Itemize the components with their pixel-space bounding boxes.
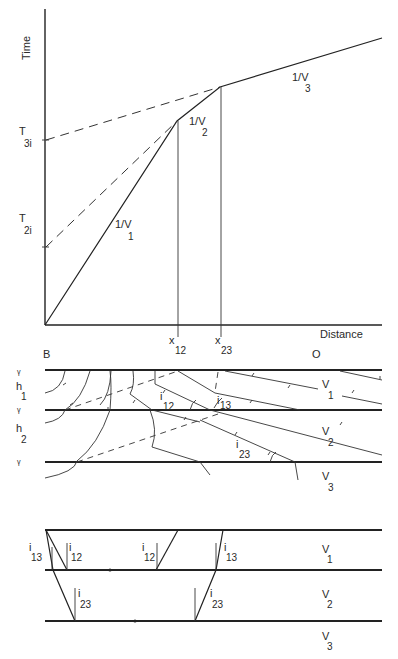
svg-text:23: 23 (212, 599, 224, 610)
svg-text:2: 2 (202, 127, 208, 138)
direction-dot-1 (108, 568, 111, 571)
svg-text:2: 2 (21, 434, 27, 445)
ray-3 (178, 371, 300, 410)
svg-text:T: T (19, 125, 26, 137)
v3-bottom-label: V 3 (322, 630, 333, 652)
wavefront-diagram: B O ᵞ h 1 ᵞ h 2 ᵞ (16, 348, 382, 493)
travel-time-plot: Time Distance T 3i T 2i 1/V 1 1/V 2 (19, 9, 382, 356)
i13-right-label: i 13 (224, 541, 238, 563)
svg-text:1/V: 1/V (189, 115, 206, 127)
svg-text:23: 23 (221, 345, 233, 356)
svg-text:23: 23 (239, 449, 251, 460)
intercept-extension-2 (46, 121, 177, 247)
v1-bottom-label: V 1 (322, 543, 333, 565)
svg-text:1/V: 1/V (115, 218, 132, 230)
svg-text:V: V (322, 470, 330, 482)
svg-text:23: 23 (80, 599, 92, 610)
ray-6 (340, 371, 382, 380)
svg-text:3: 3 (327, 641, 333, 652)
svg-text:T: T (19, 212, 26, 224)
i12-mid-label: i 12 (142, 541, 156, 563)
svg-text:V: V (322, 378, 330, 390)
marker-mid: ᵞ (17, 405, 21, 417)
wavefront-2 (45, 371, 90, 423)
v3-label: V 3 (322, 470, 334, 493)
svg-text:1: 1 (328, 390, 334, 401)
svg-text:V: V (322, 425, 330, 437)
svg-text:12: 12 (144, 552, 156, 563)
svg-text:3: 3 (305, 83, 311, 94)
i13-label: i 13 (217, 394, 232, 411)
i12-label: i 12 (160, 390, 175, 412)
time-axis-label: Time (20, 36, 32, 60)
wavefront-4 (100, 371, 111, 405)
svg-text:1: 1 (327, 554, 333, 565)
v2-label: V 2 (322, 425, 334, 448)
i23-right-label: i 23 (210, 587, 224, 610)
end-label-o: O (312, 348, 321, 360)
svg-text:i: i (78, 587, 80, 599)
svg-text:13: 13 (31, 552, 43, 563)
svg-text:1: 1 (21, 391, 27, 402)
ray-angle-diagram: i 13 i 12 i 23 i 12 i 13 i 23 V 1 V (29, 530, 382, 652)
t3i-label: T 3i (19, 125, 32, 149)
svg-text:12: 12 (71, 552, 83, 563)
svg-text:1/V: 1/V (292, 71, 309, 83)
x23-label: x 23 (215, 334, 233, 356)
direction-dot-2 (133, 619, 136, 622)
h1-label: h 1 (16, 380, 27, 402)
i13-left-label: i 13 (29, 541, 43, 563)
marker-bottom: ᵞ (17, 457, 21, 469)
refraction-figure: Time Distance T 3i T 2i 1/V 1 1/V 2 (0, 0, 398, 659)
wavefront-6 (150, 410, 155, 447)
intercept-extension-3 (46, 87, 220, 140)
slope-v1-label: 1/V 1 (115, 218, 134, 242)
marker-top: ᵞ (17, 367, 21, 379)
svg-text:1: 1 (128, 231, 134, 242)
wavefront-1 (45, 371, 65, 393)
svg-text:2: 2 (327, 599, 333, 610)
svg-text:3i: 3i (24, 138, 32, 149)
svg-text:i: i (210, 587, 212, 599)
i23-left-label: i 23 (78, 587, 92, 610)
travel-time-curve (45, 38, 382, 325)
svg-text:2i: 2i (24, 225, 32, 236)
h2-label: h 2 (16, 422, 27, 445)
headwave-front-3 (215, 372, 218, 392)
slope-v2-label: 1/V 2 (189, 115, 208, 138)
svg-text:2: 2 (328, 437, 334, 448)
svg-text:13: 13 (220, 400, 232, 411)
v2-bottom-label: V 2 (322, 588, 333, 610)
svg-text:h: h (16, 422, 22, 434)
svg-text:13: 13 (226, 552, 238, 563)
ray-4 (225, 371, 318, 389)
slope-v3-label: 1/V 3 (292, 71, 311, 94)
v1-label: V 1 (322, 378, 334, 401)
svg-text:12: 12 (175, 345, 187, 356)
wavefront-5 (130, 371, 134, 394)
x12-label: x 12 (169, 334, 187, 356)
t2i-label: T 2i (19, 212, 32, 236)
source-label-b: B (43, 348, 50, 360)
i12-left-label: i 12 (69, 541, 83, 563)
ray-mid-12 (156, 530, 178, 570)
svg-text:3: 3 (328, 482, 334, 493)
svg-text:12: 12 (163, 401, 175, 412)
distance-axis-label: Distance (320, 328, 363, 340)
headwave-front-2 (77, 413, 221, 462)
ray-5 (342, 396, 382, 404)
